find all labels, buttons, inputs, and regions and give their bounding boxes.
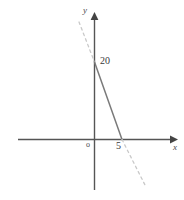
origin-label: o bbox=[86, 141, 90, 149]
y-axis-label: y bbox=[83, 6, 87, 15]
x-axis-label: x bbox=[173, 143, 177, 152]
y-axis-arrowhead bbox=[91, 12, 99, 20]
y-intercept-label: 20 bbox=[100, 56, 110, 66]
coordinate-plane-svg bbox=[0, 0, 184, 200]
graph-figure: y x o 20 5 bbox=[0, 0, 184, 200]
solid-line-segment bbox=[95, 62, 123, 140]
dashed-extension-upper bbox=[79, 22, 95, 62]
dashed-extension-lower bbox=[122, 140, 145, 186]
x-intercept-label: 5 bbox=[116, 141, 121, 151]
